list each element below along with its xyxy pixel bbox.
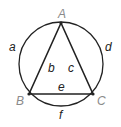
arc-label-a: a	[9, 40, 16, 54]
vertex-a-dot	[59, 21, 62, 24]
inscribed-triangle-diagram: A B C a d f b c e	[0, 0, 121, 127]
vertex-label-c: C	[97, 94, 106, 108]
arc-label-f: f	[59, 108, 64, 122]
vertex-label-b: B	[16, 94, 24, 108]
vertex-b-dot	[27, 92, 30, 95]
arc-label-d: d	[105, 40, 112, 54]
side-label-c: c	[68, 61, 74, 75]
side-label-b: b	[48, 61, 55, 75]
side-label-e: e	[58, 80, 65, 94]
vertex-label-a: A	[57, 7, 66, 21]
vertex-c-dot	[91, 92, 94, 95]
